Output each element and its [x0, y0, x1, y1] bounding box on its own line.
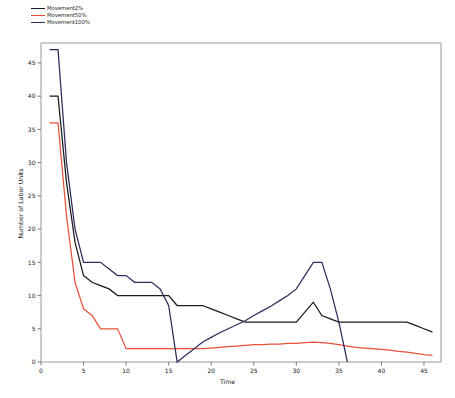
- line-chart-plot: 051015202530354045 051015202530354045: [0, 0, 455, 398]
- x-tick-label: 25: [250, 367, 258, 374]
- legend-item-movement100: Movement100%: [31, 19, 90, 26]
- legend-label-movement50: Movement50%: [47, 12, 86, 19]
- chart-figure: 051015202530354045 051015202530354045 Mo…: [0, 0, 455, 398]
- plot-frame: [41, 43, 441, 362]
- x-tick-label: 40: [378, 367, 386, 374]
- y-tick-label: 10: [28, 292, 36, 299]
- x-tick-label: 15: [165, 367, 173, 374]
- chart-legend: Movement2% Movement50% Movement100%: [31, 5, 90, 26]
- y-tick-label: 0: [32, 358, 36, 365]
- x-tick-label: 20: [207, 367, 215, 374]
- y-tick-label: 30: [28, 159, 36, 166]
- y-axis-title: Number of Labor Units: [17, 144, 24, 264]
- legend-swatch-movement2: [31, 8, 45, 9]
- x-tick-label: 5: [82, 367, 86, 374]
- series-line-movement2: [50, 96, 433, 332]
- y-tick-label: 40: [28, 92, 36, 99]
- x-axis-ticks: 051015202530354045: [39, 362, 428, 374]
- legend-item-movement2: Movement2%: [31, 5, 90, 12]
- x-tick-label: 35: [335, 367, 343, 374]
- legend-label-movement100: Movement100%: [47, 19, 90, 26]
- legend-swatch-movement50: [31, 15, 45, 16]
- x-tick-label: 10: [122, 367, 130, 374]
- y-tick-label: 15: [28, 259, 36, 266]
- x-axis-title: Time: [0, 378, 455, 385]
- x-tick-label: 45: [420, 367, 428, 374]
- legend-label-movement2: Movement2%: [47, 5, 83, 12]
- y-tick-label: 25: [28, 192, 36, 199]
- y-axis-ticks: 051015202530354045: [28, 59, 41, 365]
- y-tick-label: 5: [32, 325, 36, 332]
- y-tick-label: 20: [28, 225, 36, 232]
- data-series-group: [50, 50, 433, 362]
- x-tick-label: 0: [39, 367, 43, 374]
- legend-swatch-movement100: [31, 22, 45, 23]
- x-tick-label: 30: [292, 367, 300, 374]
- y-tick-label: 45: [28, 59, 36, 66]
- y-tick-label: 35: [28, 126, 36, 133]
- legend-item-movement50: Movement50%: [31, 12, 90, 19]
